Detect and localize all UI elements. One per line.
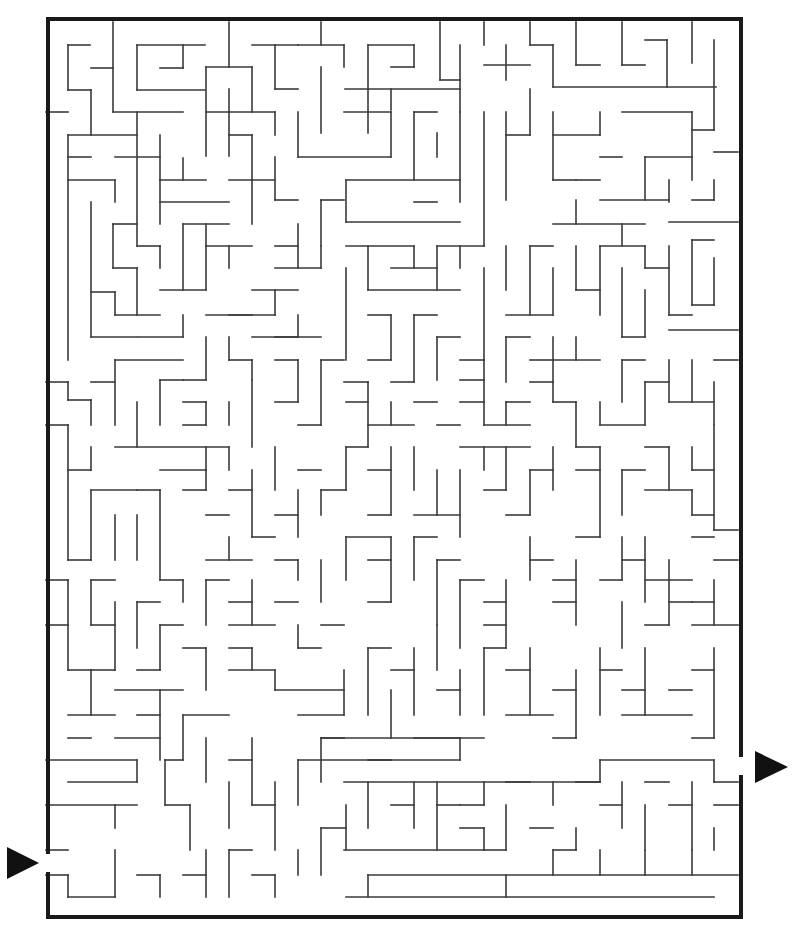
maze-border-lower (48, 777, 741, 917)
maze-border-upper (48, 19, 741, 852)
maze-walls (46, 22, 738, 897)
maze-board (0, 0, 801, 952)
start-arrow-icon (7, 847, 39, 879)
finish-arrow-icon (755, 751, 788, 783)
